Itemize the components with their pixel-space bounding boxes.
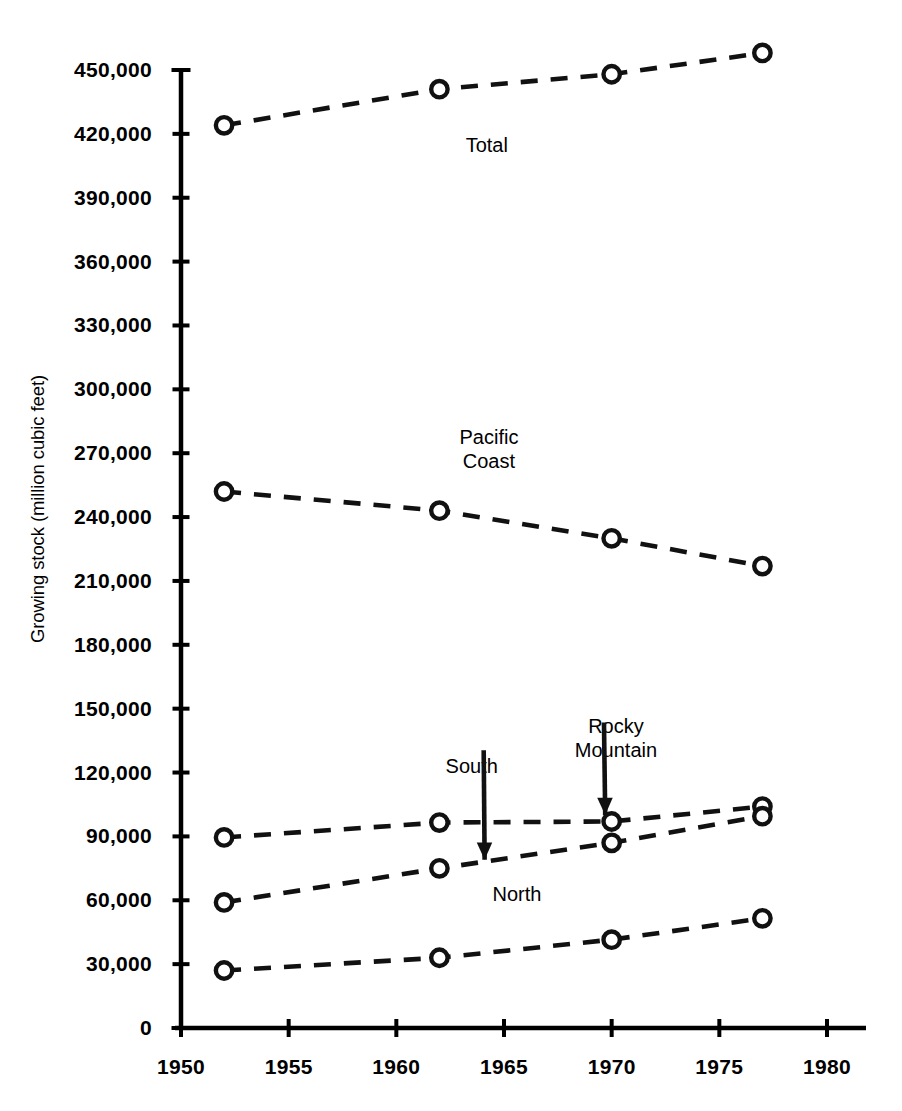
annotation-arrow-south: [477, 750, 492, 860]
data-point-marker: [754, 45, 770, 61]
data-point-marker: [216, 117, 232, 133]
data-point-marker: [431, 502, 447, 518]
series-line-total: [224, 53, 762, 125]
arrow-head: [477, 842, 492, 859]
data-point-marker: [603, 530, 619, 546]
data-point-marker: [603, 835, 619, 851]
data-point-marker: [216, 483, 232, 499]
data-point-marker: [603, 931, 619, 947]
data-point-marker: [216, 962, 232, 978]
series-line-rocky-mountain: [224, 807, 762, 838]
annotation-arrow-rocky-mountain: [597, 722, 612, 815]
series-line-south: [224, 816, 762, 902]
series-line-pacific-coast: [224, 492, 762, 567]
data-point-marker: [216, 894, 232, 910]
plot-area: [0, 0, 902, 1111]
data-point-marker: [431, 950, 447, 966]
series-line-north: [224, 918, 762, 970]
data-point-marker: [431, 81, 447, 97]
data-point-marker: [754, 558, 770, 574]
data-point-marker: [603, 66, 619, 82]
data-point-marker: [754, 910, 770, 926]
growing-stock-line-chart: Growing stock (million cubic feet) 030,0…: [0, 0, 902, 1111]
data-point-marker: [431, 860, 447, 876]
data-point-marker: [216, 829, 232, 845]
data-point-marker: [603, 813, 619, 829]
data-point-marker: [754, 808, 770, 824]
data-point-marker: [431, 814, 447, 830]
